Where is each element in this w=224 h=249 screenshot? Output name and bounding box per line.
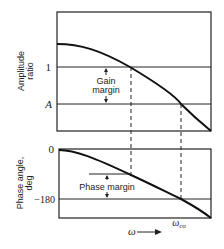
amplitude-curve xyxy=(57,44,211,131)
zero-tick-label: 0 xyxy=(49,143,55,155)
phase-margin-arrowhead-down xyxy=(105,194,109,198)
gain-margin-label-2: margin xyxy=(92,85,120,95)
x-axis-arrowhead xyxy=(155,229,162,235)
gain-margin-arrowhead-down xyxy=(104,99,108,103)
bode-diagram: Gain margin 1 A Amplitude ratio Phase ma… xyxy=(0,0,224,249)
phase-ylabel-2: deg xyxy=(24,175,34,190)
unity-tick-label: 1 xyxy=(46,61,52,73)
gain-margin-arrowhead-up xyxy=(104,68,108,72)
phase-margin-arrowhead-up xyxy=(105,175,109,179)
phase-margin-label: Phase margin xyxy=(79,182,135,192)
minus180-tick-label: −180 xyxy=(34,194,55,205)
amplitude-plot-frame xyxy=(57,12,211,131)
amplitude-ylabel-2: ratio xyxy=(25,62,35,80)
crossover-frequency-label: ωco xyxy=(172,217,186,230)
omega-label: ω xyxy=(128,225,136,237)
a-tick-label: A xyxy=(44,98,52,110)
